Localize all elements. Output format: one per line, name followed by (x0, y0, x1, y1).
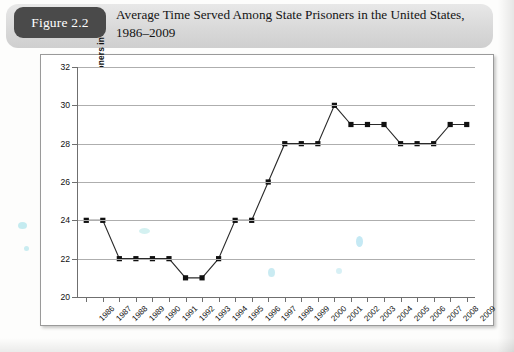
chart-container: Average Time Served for State Prisoners … (41, 55, 493, 325)
x-axis-tick-label: 2004 (395, 304, 414, 323)
x-axis-tick (235, 297, 236, 302)
scan-speck (18, 222, 27, 229)
x-axis-tick (268, 297, 269, 302)
grid-line (78, 144, 475, 145)
x-axis-tick-label: 1992 (197, 304, 216, 323)
y-axis-tick (72, 182, 78, 183)
y-axis-tick-label: 22 (60, 254, 70, 264)
figure-title-line-2: 1986–2009 (116, 24, 482, 42)
y-axis-tick-label: 26 (60, 177, 70, 187)
figure-frame: Average Time Served for State Prisoners … (40, 54, 494, 326)
data-point-marker (183, 275, 188, 280)
y-axis-tick (72, 259, 78, 260)
x-axis-tick-label: 2006 (428, 304, 447, 323)
y-axis-tick (72, 220, 78, 221)
x-axis-tick-label: 1988 (131, 304, 150, 323)
y-axis-tick (72, 144, 78, 145)
x-axis-tick-label: 1991 (180, 304, 199, 323)
data-point-marker (464, 122, 469, 127)
scan-speck (24, 246, 29, 251)
x-axis-tick (86, 297, 87, 302)
x-axis-tick (417, 297, 418, 302)
x-axis-tick (119, 297, 120, 302)
x-axis-tick-label: 1986 (98, 304, 117, 323)
y-axis-tick-label: 28 (60, 139, 70, 149)
figure-title-line-1: Average Time Served Among State Prisoner… (116, 7, 464, 22)
x-axis-tick-label: 2008 (461, 304, 480, 323)
grid-line (78, 220, 475, 221)
page-edge-shadow-right (498, 0, 514, 352)
page-edge-shadow-bottom (0, 338, 514, 352)
x-axis-tick-label: 1998 (296, 304, 315, 323)
grid-line (78, 105, 475, 106)
x-axis-tick (351, 297, 352, 302)
data-point-marker (199, 275, 204, 280)
x-axis-tick (384, 297, 385, 302)
y-axis-tick-label: 32 (60, 62, 70, 72)
x-axis-tick (334, 297, 335, 302)
x-axis-tick (367, 297, 368, 302)
x-axis-tick-label: 2007 (445, 304, 464, 323)
x-axis-tick (401, 297, 402, 302)
x-axis-tick (186, 297, 187, 302)
grid-line (78, 67, 475, 68)
x-axis-tick (219, 297, 220, 302)
y-axis-tick (72, 67, 78, 68)
x-axis-tick-label: 2000 (329, 304, 348, 323)
y-axis-tick-label: 24 (60, 215, 70, 225)
y-axis-tick (72, 105, 78, 106)
figure-title: Average Time Served Among State Prisoner… (116, 6, 482, 41)
x-axis-tick (169, 297, 170, 302)
data-point-marker (381, 122, 386, 127)
x-axis-tick (136, 297, 137, 302)
x-axis-tick-label: 2005 (412, 304, 431, 323)
x-axis-tick-label: 1994 (230, 304, 249, 323)
grid-line (78, 182, 475, 183)
x-axis-tick-label: 1993 (213, 304, 232, 323)
x-axis-tick-label: 1999 (313, 304, 332, 323)
y-axis-tick (72, 297, 78, 298)
y-axis-tick-label: 20 (60, 292, 70, 302)
x-axis-tick (467, 297, 468, 302)
x-axis-tick-label: 2001 (346, 304, 365, 323)
plot-area: 2022242628303219861987198819891990199119… (77, 67, 475, 298)
x-axis-tick (318, 297, 319, 302)
series-line (86, 105, 466, 278)
x-axis-tick-label: 1989 (147, 304, 166, 323)
figure-root: Figure 2.2 Average Time Served Among Sta… (0, 0, 514, 352)
x-axis-tick (202, 297, 203, 302)
x-axis-tick-label: 2003 (379, 304, 398, 323)
x-axis-tick-label: 1996 (263, 304, 282, 323)
x-axis-tick-label: 2002 (362, 304, 381, 323)
y-axis-tick-label: 30 (60, 100, 70, 110)
figure-number-label: Figure 2.2 (14, 7, 106, 38)
grid-line (78, 259, 475, 260)
x-axis-tick (301, 297, 302, 302)
x-axis-tick (434, 297, 435, 302)
data-point-marker (365, 122, 370, 127)
x-axis-tick-label: 1990 (164, 304, 183, 323)
figure-number-badge: Figure 2.2 (14, 7, 106, 38)
x-axis-tick (103, 297, 104, 302)
x-axis-tick-label: 1997 (279, 304, 298, 323)
x-axis-tick-label: 1995 (246, 304, 265, 323)
x-axis-tick (152, 297, 153, 302)
x-axis-tick-label: 1987 (114, 304, 133, 323)
x-axis-tick (252, 297, 253, 302)
x-axis-tick (285, 297, 286, 302)
data-point-marker (448, 122, 453, 127)
x-axis-tick (450, 297, 451, 302)
x-axis-tick-label: 2009 (478, 304, 497, 323)
data-point-marker (348, 122, 353, 127)
